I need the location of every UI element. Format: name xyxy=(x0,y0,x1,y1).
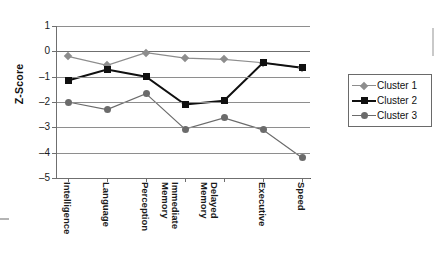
legend-label: Cluster 2 xyxy=(377,95,417,107)
data-point xyxy=(65,77,72,84)
legend-swatch-icon xyxy=(351,79,377,92)
data-point xyxy=(182,101,189,108)
chart-legend: Cluster 1Cluster 2Cluster 3 xyxy=(348,74,432,127)
y-tick-mark xyxy=(52,153,57,154)
legend-item-cluster-2[interactable]: Cluster 2 xyxy=(351,93,428,108)
data-point xyxy=(182,126,189,133)
gridline-neg1 xyxy=(57,77,310,78)
y-tick-mark xyxy=(52,26,57,27)
data-point xyxy=(104,106,111,113)
data-point xyxy=(65,99,72,106)
y-tick-mark xyxy=(52,51,57,52)
x-tick-mark xyxy=(185,178,186,182)
y-tick-label: –1 xyxy=(32,72,50,82)
legend-item-cluster-3[interactable]: Cluster 3 xyxy=(351,108,428,123)
y-tick-mark xyxy=(52,127,57,128)
gridline-neg5 xyxy=(57,178,310,179)
gridline-1 xyxy=(57,26,310,27)
data-point xyxy=(299,64,306,71)
legend-swatch-icon xyxy=(351,94,377,107)
x-axis-label-delayed-memory: Delayed Memory xyxy=(199,182,219,258)
data-point xyxy=(260,126,267,133)
x-axis-label-language: Language xyxy=(101,182,111,258)
y-axis-tick-labels: 10–1–2–3–4–5 xyxy=(28,0,50,262)
y-tick-mark xyxy=(52,178,57,179)
y-axis-title: Z-Score xyxy=(13,54,25,114)
data-point xyxy=(143,73,150,80)
gridline-neg4 xyxy=(57,153,310,154)
data-point xyxy=(143,90,150,97)
legend-label: Cluster 1 xyxy=(377,80,417,92)
y-tick-mark xyxy=(52,77,57,78)
legend-swatch-icon xyxy=(351,109,377,122)
scan-artifact-left xyxy=(0,218,9,220)
data-point xyxy=(221,114,228,121)
data-point xyxy=(221,97,228,104)
plot-area xyxy=(57,26,310,178)
chart-page: Z-Score 10–1–2–3–4–5 IntelligenceLanguag… xyxy=(0,0,439,262)
x-axis-label-immediate-memory: Immediate Memory xyxy=(160,182,180,258)
legend-label: Cluster 3 xyxy=(377,110,417,122)
y-tick-label: –5 xyxy=(32,173,50,183)
x-axis-label-intelligence: Intelligence xyxy=(62,182,72,258)
x-axis-label-executive: Executive xyxy=(257,182,267,258)
y-tick-label: –2 xyxy=(32,97,50,107)
y-tick-mark xyxy=(52,102,57,103)
x-axis-label-speed: Speed xyxy=(296,182,306,258)
x-axis-label-perception: Perception xyxy=(140,182,150,258)
y-tick-label: –3 xyxy=(32,122,50,132)
data-point xyxy=(260,59,267,66)
data-point xyxy=(104,66,111,73)
y-tick-label: 0 xyxy=(32,46,50,56)
x-tick-mark xyxy=(224,178,225,182)
scan-artifact-right xyxy=(432,28,434,56)
data-point xyxy=(299,154,306,161)
y-tick-label: –4 xyxy=(32,148,50,158)
y-tick-label: 1 xyxy=(32,21,50,31)
legend-item-cluster-1[interactable]: Cluster 1 xyxy=(351,78,428,93)
gridline-0 xyxy=(57,51,310,52)
